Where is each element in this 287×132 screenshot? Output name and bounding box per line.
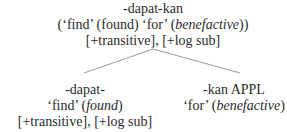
root-gloss: (‘find’ (found) ‘for’ (benefactive)) (53, 17, 253, 33)
root-features: [+transitive], [+log sub] (53, 33, 253, 49)
right-node: -kan APPL ‘for’ (benefactive) (178, 82, 287, 114)
edge-left (84, 49, 153, 73)
right-form: -kan APPL (178, 82, 287, 98)
left-node: -dapat- ‘find’ (found) [+transitive], [+… (0, 82, 170, 130)
edge-right (153, 49, 240, 73)
right-gloss: ‘for’ (benefactive) (178, 98, 287, 114)
left-form: -dapat- (0, 82, 170, 98)
root-node: -dapat-kan (‘find’ (found) ‘for’ (benefa… (53, 1, 253, 49)
left-gloss: ‘find’ (found) (0, 98, 170, 114)
root-form: -dapat-kan (53, 1, 253, 17)
left-features: [+transitive], [+log sub] (0, 114, 170, 130)
